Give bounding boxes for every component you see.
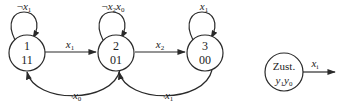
state-3-output: 00 — [199, 53, 211, 67]
state-2: 2 01 — [98, 35, 134, 71]
state-3: 3 00 — [187, 35, 223, 71]
label-2-to-3: x2 — [155, 38, 165, 52]
label-2-to-1: ¬x0 — [67, 89, 82, 103]
label-loop-3: x1 — [199, 0, 209, 14]
label-loop-1: ¬x1 — [17, 0, 32, 14]
legend-edge-label: xi — [311, 57, 319, 71]
state-3-number: 3 — [202, 39, 208, 53]
label-3-to-2: ¬x1 — [159, 89, 174, 103]
label-loop-2: ¬x2x0 — [102, 0, 126, 14]
legend-state: Zust. y1y0 — [265, 53, 303, 91]
state-1-number: 1 — [24, 39, 30, 53]
state-2-number: 2 — [113, 39, 119, 53]
state-2-output: 01 — [110, 53, 122, 67]
state-1: 1 11 — [9, 35, 45, 71]
label-1-to-2: x1 — [65, 38, 75, 52]
state-1-output: 11 — [21, 53, 33, 67]
state-diagram: 1 11 2 01 3 00 Zust. y1y0 xi ¬x1 x1 ¬x2x… — [0, 0, 337, 110]
legend-title: Zust. — [273, 60, 296, 72]
